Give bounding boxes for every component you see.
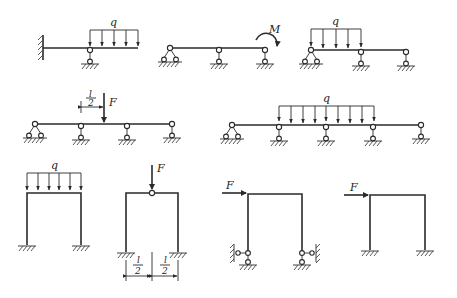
svg-text:2: 2 bbox=[161, 266, 168, 276]
load-label-M: M bbox=[268, 23, 281, 36]
load-label-F: F bbox=[349, 181, 358, 194]
diagram-a-propped-cantilever: q bbox=[38, 16, 138, 69]
fixed-wall-support bbox=[38, 35, 43, 60]
diagram-d-continuous-beam-point-load: F l 2 bbox=[23, 89, 181, 145]
load-label-q: q bbox=[332, 15, 339, 28]
fixed-support bbox=[169, 253, 187, 258]
distributed-load: q bbox=[27, 159, 81, 190]
left-support bbox=[230, 244, 257, 270]
diagram-h-portal-frame-lateral-supports: F bbox=[222, 179, 320, 270]
frame bbox=[370, 195, 425, 250]
diagram-c-continuous-beam-q: q bbox=[299, 15, 415, 71]
roller-support bbox=[256, 47, 274, 69]
load-label-q: q bbox=[323, 92, 330, 105]
structures-figure: q M q F bbox=[0, 0, 457, 298]
svg-text:2: 2 bbox=[134, 266, 141, 276]
roller-support bbox=[210, 47, 228, 69]
dimension-l-half-pair: l 2 l 2 bbox=[126, 252, 178, 281]
fixed-support bbox=[117, 253, 135, 258]
frame bbox=[27, 193, 81, 245]
load-label-q: q bbox=[110, 16, 117, 29]
distributed-load: q bbox=[90, 16, 138, 46]
svg-text:l: l bbox=[137, 255, 140, 265]
fixed-support bbox=[416, 251, 434, 256]
load-label-F: F bbox=[156, 162, 165, 175]
fixed-support bbox=[72, 246, 90, 251]
diagram-b-continuous-beam-moment: M bbox=[158, 23, 281, 69]
roller-support bbox=[118, 123, 136, 145]
roller-support bbox=[72, 123, 90, 145]
load-label-F: F bbox=[225, 179, 234, 192]
roller-support bbox=[317, 124, 335, 146]
fixed-support bbox=[18, 246, 36, 251]
roller-support bbox=[270, 124, 288, 146]
dimension-l-half: l 2 bbox=[81, 89, 103, 113]
diagram-i-portal-frame-horizontal-load: F bbox=[344, 181, 434, 256]
roller-support bbox=[364, 124, 382, 146]
right-support bbox=[293, 244, 320, 270]
roller-support bbox=[352, 49, 370, 71]
svg-text:2: 2 bbox=[87, 98, 94, 108]
distributed-load: q bbox=[279, 92, 374, 123]
load-label-q: q bbox=[51, 159, 58, 172]
distributed-load: q bbox=[311, 15, 361, 48]
roller-support bbox=[397, 49, 415, 71]
roller-support bbox=[81, 47, 99, 69]
diagram-f-portal-frame-q: q bbox=[18, 159, 90, 251]
svg-text:l: l bbox=[164, 255, 167, 265]
diagram-g-portal-frame-hinge: F l 2 l 2 bbox=[117, 162, 187, 281]
hinge bbox=[149, 190, 154, 195]
frame bbox=[126, 193, 178, 252]
diagram-e-continuous-beam-q: q bbox=[220, 92, 430, 146]
load-label-F: F bbox=[108, 96, 117, 109]
frame bbox=[248, 194, 302, 251]
fixed-support bbox=[361, 251, 379, 256]
